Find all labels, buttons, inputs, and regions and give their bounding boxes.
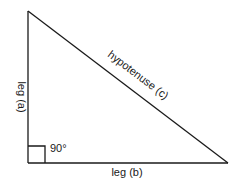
triangle: [28, 11, 228, 163]
right-angle-marker: [28, 146, 45, 163]
hypotenuse-line: [28, 11, 228, 163]
leg-a-label: leg (a): [16, 81, 28, 112]
right-triangle-diagram: 90° leg (b) leg (a) hypotenuse (c): [0, 0, 247, 195]
leg-b-label: leg (b): [111, 166, 142, 178]
hypotenuse-label: hypotenuse (c): [106, 48, 171, 102]
angle-label: 90°: [50, 142, 67, 154]
